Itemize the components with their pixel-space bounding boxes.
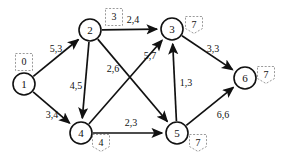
edge-label-4-3: 5,7 bbox=[144, 50, 157, 61]
node-3[interactable]: 3 bbox=[161, 18, 183, 40]
network-flow-diagram: 5,33,42,44,52,65,72,31,33,36,6 037477 12… bbox=[0, 0, 286, 167]
node-tag-label-1: 0 bbox=[22, 56, 27, 67]
edge-label-2-4: 4,5 bbox=[70, 80, 83, 91]
node-tag-label-6: 7 bbox=[264, 69, 269, 80]
node-1[interactable]: 1 bbox=[13, 73, 35, 95]
edge-label-2-5: 2,6 bbox=[107, 63, 120, 74]
node-2[interactable]: 2 bbox=[79, 19, 101, 41]
edge-label-1-2: 5,3 bbox=[50, 43, 63, 54]
node-5[interactable]: 5 bbox=[166, 122, 188, 144]
edge-5-to-3 bbox=[173, 44, 177, 121]
node-label-4: 4 bbox=[78, 127, 84, 139]
edge-label-5-6: 6,6 bbox=[217, 109, 230, 120]
node-4[interactable]: 4 bbox=[70, 122, 92, 144]
node-label-5: 5 bbox=[174, 127, 180, 139]
node-tag-label-5: 7 bbox=[196, 137, 201, 148]
node-label-1: 1 bbox=[21, 78, 27, 90]
node-label-3: 3 bbox=[169, 23, 175, 35]
edge-2-to-4 bbox=[82, 42, 89, 118]
graph-canvas: 5,33,42,44,52,65,72,31,33,36,6 037477 12… bbox=[0, 0, 286, 167]
edge-label-2-3: 2,4 bbox=[127, 14, 140, 25]
edge-label-5-3: 1,3 bbox=[180, 77, 193, 88]
node-label-6: 6 bbox=[242, 72, 248, 84]
node-tag-label-2: 3 bbox=[112, 11, 117, 22]
node-label-2: 2 bbox=[87, 24, 93, 36]
node-6[interactable]: 6 bbox=[234, 67, 256, 89]
edge-2-to-3 bbox=[102, 29, 157, 30]
node-tag-label-4: 4 bbox=[99, 137, 104, 148]
edge-5-to-6 bbox=[186, 87, 233, 125]
edge-2-to-5 bbox=[98, 39, 168, 121]
node-tag-label-3: 7 bbox=[192, 19, 197, 30]
edge-label-4-5: 2,3 bbox=[125, 117, 138, 128]
edge-label-1-4: 3,4 bbox=[46, 109, 59, 120]
edge-label-3-6: 3,3 bbox=[207, 43, 220, 54]
edge-labels-layer: 5,33,42,44,52,65,72,31,33,36,6 bbox=[46, 14, 230, 128]
